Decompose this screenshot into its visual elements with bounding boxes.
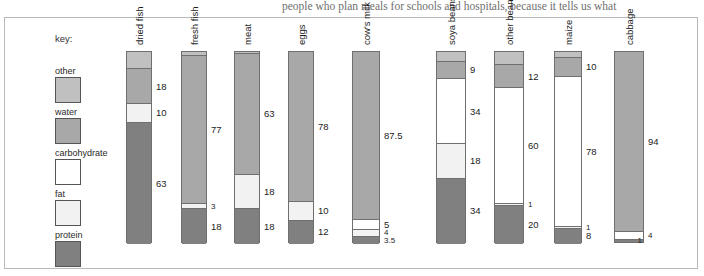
bar-segment-carbohydrate <box>495 88 523 203</box>
bar-segment-protein <box>437 179 465 244</box>
column-label: cow's milk <box>361 2 372 45</box>
bar-segment-water <box>235 54 259 175</box>
bar-segment-protein <box>127 123 151 244</box>
bar-segment-carbohydrate <box>437 79 465 144</box>
stacked-bar[interactable] <box>181 51 207 243</box>
stacked-bar[interactable] <box>288 51 314 243</box>
column-label: maize <box>563 20 574 45</box>
segment-value: 18 <box>470 155 481 166</box>
column-label: dried fish <box>134 6 145 45</box>
stacked-bar[interactable] <box>554 51 582 243</box>
value-labels: 9441 <box>644 51 684 243</box>
column-label: soya beans <box>446 0 457 45</box>
segment-value: 63 <box>156 177 167 188</box>
stacked-bar-plot: dried fish181063fresh fish77318meat63181… <box>0 0 694 252</box>
stacked-bar[interactable] <box>494 51 524 243</box>
column-label: meat <box>242 24 253 45</box>
segment-value: 78 <box>586 145 597 156</box>
stacked-bar[interactable] <box>614 51 644 243</box>
bar-segment-protein <box>353 237 379 244</box>
bar-segment-water <box>127 69 151 104</box>
bar-segment-fat <box>289 202 313 221</box>
bar-column[interactable]: dried fish181063 <box>126 51 152 243</box>
bar-column[interactable]: cow's milk87.5543.5 <box>352 51 380 243</box>
segment-value: 78 <box>318 120 329 131</box>
stacked-bar[interactable] <box>234 51 260 243</box>
bar-segment-fat <box>235 175 259 210</box>
segment-value: 10 <box>156 107 167 118</box>
bar-segment-protein <box>289 221 313 244</box>
bar-column[interactable]: other beans1260120 <box>494 51 524 243</box>
bar-segment-water <box>555 58 581 77</box>
bar-column[interactable]: cabbage9441 <box>614 51 644 243</box>
column-label: eggs <box>296 24 307 45</box>
segment-value: 1 <box>638 236 642 245</box>
segment-value: 18 <box>156 80 167 91</box>
segment-value: 20 <box>528 218 539 229</box>
segment-value: 63 <box>264 108 275 119</box>
bar-segment-water <box>289 52 313 202</box>
segment-value: 10 <box>318 205 329 216</box>
segment-value: 60 <box>528 140 539 151</box>
segment-value: 10 <box>586 61 597 72</box>
bar-segment-fat <box>127 104 151 123</box>
stacked-bar[interactable] <box>436 51 466 243</box>
bar-segment-fat <box>437 144 465 179</box>
value-labels: 87.5543.5 <box>380 51 420 243</box>
bar-segment-other <box>495 52 523 65</box>
segment-value: 12 <box>318 226 329 237</box>
segment-value: 4 <box>648 231 652 240</box>
column-label: cabbage <box>624 9 635 45</box>
stacked-bar[interactable] <box>352 51 380 243</box>
bar-segment-other <box>437 52 465 62</box>
bar-column[interactable]: soya beans9341834 <box>436 51 466 243</box>
bar-column[interactable]: fresh fish77318 <box>181 51 207 243</box>
segment-value: 3 <box>211 201 215 210</box>
bar-segment-protein <box>555 229 581 244</box>
segment-value: 1 <box>528 199 532 208</box>
bar-segment-water <box>437 62 465 79</box>
segment-value: 77 <box>211 123 222 134</box>
segment-value: 18 <box>264 220 275 231</box>
segment-value: 8 <box>586 230 591 241</box>
segment-value: 12 <box>528 70 539 81</box>
bar-segment-carbohydrate <box>353 220 379 230</box>
bar-segment-protein <box>182 209 206 244</box>
segment-value: 94 <box>648 136 659 147</box>
bar-segment-protein <box>235 209 259 244</box>
bar-column[interactable]: eggs781012 <box>288 51 314 243</box>
segment-value: 3.5 <box>384 235 395 244</box>
segment-value: 18 <box>211 220 222 231</box>
bar-segment-fat <box>353 230 379 238</box>
bar-segment-water <box>615 52 643 232</box>
bar-column[interactable]: meat631818 <box>234 51 260 243</box>
segment-value: 9 <box>470 64 475 75</box>
bar-segment-other <box>127 52 151 69</box>
bar-segment-water <box>495 65 523 88</box>
segment-value: 34 <box>470 205 481 216</box>
segment-value: 18 <box>264 186 275 197</box>
bar-column[interactable]: maize107818 <box>554 51 582 243</box>
segment-value: 34 <box>470 105 481 116</box>
stacked-bar[interactable] <box>126 51 152 243</box>
column-label: other beans <box>504 0 515 45</box>
segment-value: 87.5 <box>384 130 403 141</box>
bar-segment-water <box>182 56 206 204</box>
bar-segment-water <box>353 52 379 220</box>
value-labels: 781012 <box>314 51 354 243</box>
bar-segment-protein <box>495 206 523 244</box>
column-label: fresh fish <box>189 6 200 45</box>
bar-segment-carbohydrate <box>555 77 581 227</box>
